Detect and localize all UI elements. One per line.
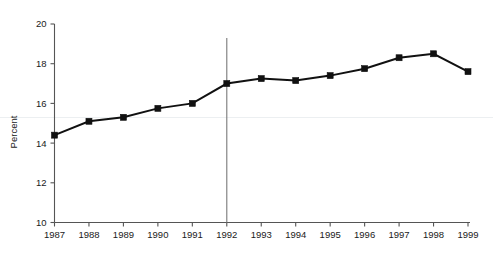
data-point-1990 [155,105,161,111]
y-tick-label-18: 18 [36,58,47,69]
x-tick-label-1992: 1992 [216,229,237,240]
data-point-1996 [362,66,368,72]
x-tick-label-1987: 1987 [44,229,65,240]
x-tick-label-1990: 1990 [147,229,168,240]
x-tick-label-1991: 1991 [182,229,203,240]
data-point-1991 [189,100,195,106]
y-tick-label-20: 20 [36,18,47,29]
data-point-1995 [327,73,333,79]
x-tick-label-1988: 1988 [78,229,99,240]
x-tick-label-1998: 1998 [423,229,444,240]
data-point-1987 [52,132,58,138]
y-tick-label-10: 10 [36,217,47,228]
data-point-1993 [258,76,264,82]
data-point-1994 [293,78,299,84]
y-tick-label-12: 12 [36,177,47,188]
data-point-1988 [86,118,92,124]
line-chart: 101214161820 198719881989199019911992199… [0,0,493,256]
x-tick-label-1999: 1999 [457,229,478,240]
x-tick-label-1995: 1995 [320,229,341,240]
x-tick-label-1989: 1989 [113,229,134,240]
x-tick-label-1993: 1993 [251,229,272,240]
y-tick-label-16: 16 [36,98,47,109]
x-tick-label-1994: 1994 [285,229,306,240]
data-point-1997 [396,55,402,61]
y-axis-title: Percent [8,115,19,148]
data-point-1999 [465,69,471,75]
data-point-1998 [431,51,437,57]
data-point-1989 [120,114,126,120]
chart-canvas: 101214161820 198719881989199019911992199… [0,0,493,256]
y-tick-label-14: 14 [36,138,47,149]
data-point-1992 [224,81,230,87]
x-tick-label-1996: 1996 [354,229,375,240]
x-tick-label-1997: 1997 [389,229,410,240]
